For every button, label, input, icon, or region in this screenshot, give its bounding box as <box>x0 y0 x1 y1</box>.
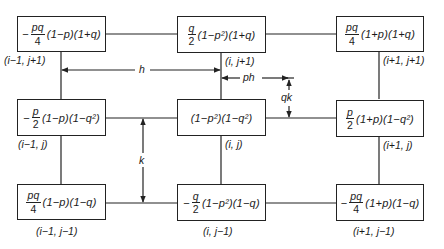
factors: (1−p)(1−q²) <box>42 112 100 124</box>
node-label: (i−1, j−1) <box>36 225 77 237</box>
factors: (1−p²)(1+q) <box>198 29 256 41</box>
node-label: (i+1, j+1) <box>383 54 424 66</box>
node-label: (i, j) <box>225 138 243 150</box>
stencil-diagram: − pq 4 (1−p)(1+q) (i−1, j+1) q 2 (1−p²)(… <box>0 0 444 249</box>
fraction: p 2 <box>346 107 354 131</box>
node-i-j: (1−p²)(1−q²) <box>177 99 266 136</box>
fraction: pq 4 <box>26 190 40 214</box>
node-label: (i−1, j) <box>18 138 47 150</box>
fraction: p 2 <box>32 106 40 130</box>
sign: − <box>23 112 30 124</box>
node-label: (i, j+1) <box>225 55 254 67</box>
node-i-minus-1-j-minus-1: pq 4 (1−p)(1−q) <box>17 184 106 220</box>
node-i-minus-1-j: − p 2 (1−p)(1−q²) <box>17 99 106 136</box>
sign: − <box>22 28 29 40</box>
fraction: pq 4 <box>345 22 359 46</box>
factors: (1+p)(1+q) <box>361 28 415 40</box>
node-label: (i, j−1) <box>203 225 232 237</box>
node-i-j-plus-1: q 2 (1−p²)(1+q) <box>177 16 266 53</box>
factors: (1−p)(1+q) <box>47 28 101 40</box>
factors: (1−p²)(1−q) <box>202 197 260 209</box>
node-i-minus-1-j-plus-1: − pq 4 (1−p)(1+q) <box>17 16 106 52</box>
fraction: q 2 <box>188 23 196 47</box>
dimension-h-label: h <box>136 64 148 75</box>
factors: (1−p)(1−q) <box>43 196 97 208</box>
sign: − <box>183 197 190 209</box>
factors: (1−p²)(1−q²) <box>191 112 253 124</box>
node-i-plus-1-j: p 2 (1+p)(1−q²) <box>336 100 424 137</box>
dimension-k-label: k <box>136 155 147 166</box>
dimension-qk-label: qk <box>278 92 295 103</box>
node-label: (i−1, j+1) <box>4 54 45 66</box>
node-label: (i+1, j−1) <box>353 225 394 237</box>
node-i-plus-1-j-plus-1: pq 4 (1+p)(1+q) <box>336 16 424 52</box>
dimension-ph-label: ph <box>240 72 258 83</box>
factors: (1+p)(1−q²) <box>356 113 414 125</box>
node-i-j-minus-1: − q 2 (1−p²)(1−q) <box>177 184 266 221</box>
sign: − <box>341 197 348 209</box>
factors: (1+p)(1−q) <box>365 197 419 209</box>
fraction: q 2 <box>192 191 200 215</box>
node-i-plus-1-j-minus-1: − pq 4 (1+p)(1−q) <box>336 184 424 221</box>
fraction: pq 4 <box>31 22 45 46</box>
fraction: pq 4 <box>349 191 363 215</box>
node-label: (i+1, j) <box>383 139 412 151</box>
